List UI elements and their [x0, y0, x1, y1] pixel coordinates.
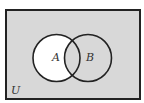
universe-label: U	[11, 84, 21, 97]
set-a-label: A	[51, 51, 60, 64]
venn-diagram: A B U	[0, 0, 144, 103]
set-b-label: B	[85, 51, 94, 64]
